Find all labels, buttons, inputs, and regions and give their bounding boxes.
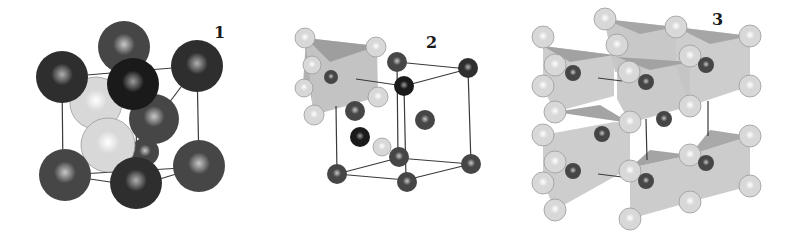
- atom-mid: [345, 101, 365, 121]
- cell-edge: [337, 174, 406, 180]
- atom-mid: [387, 52, 407, 72]
- structure-panel-3: 3: [510, 0, 800, 245]
- atom-light: [532, 124, 554, 146]
- atom-light: [679, 191, 701, 213]
- structure-3-label: 3: [712, 10, 723, 29]
- atom-light: [739, 175, 761, 197]
- atom-light: [679, 45, 701, 67]
- atom-mid: [594, 126, 610, 142]
- cell-edge: [404, 86, 406, 180]
- atom-light: [544, 199, 566, 221]
- atom-light: [594, 8, 616, 30]
- atom-mid: [656, 111, 672, 127]
- atom-mid: [324, 70, 338, 84]
- atom-light: [619, 208, 641, 230]
- atom-light: [739, 125, 761, 147]
- structure-1-drawing: [0, 0, 270, 245]
- structure-1-label: 1: [214, 23, 225, 42]
- structure-2-drawing: [270, 0, 520, 245]
- atom-mid: [389, 147, 409, 167]
- atom-light: [532, 172, 554, 194]
- atom-light: [532, 26, 554, 48]
- atom-mid: [638, 74, 654, 90]
- atom-mid: [638, 173, 654, 189]
- cell-edge: [398, 158, 471, 164]
- atom-light: [665, 16, 687, 38]
- atom-mid: [565, 163, 581, 179]
- atom-mid: [397, 172, 417, 192]
- atom-mid: [173, 140, 225, 192]
- atom-light: [368, 87, 388, 107]
- atom-mid: [39, 149, 91, 201]
- structure-panel-2: 2: [270, 0, 520, 245]
- atom-dark: [36, 51, 88, 103]
- atom-dark: [110, 157, 162, 209]
- atom-darkest: [350, 127, 370, 147]
- atom-light: [679, 144, 701, 166]
- atom-light: [366, 37, 386, 57]
- atom-light: [304, 105, 324, 125]
- atom-dark: [171, 40, 223, 92]
- atom-light: [544, 151, 566, 173]
- atom-light: [373, 138, 391, 156]
- atom-mid: [327, 164, 347, 184]
- structure-panel-1: 1: [0, 0, 270, 245]
- structure-3-drawing: [510, 0, 800, 245]
- cell-edge: [468, 69, 471, 164]
- atom-light: [303, 56, 321, 74]
- atom-light: [295, 28, 315, 48]
- atom-mid: [415, 110, 435, 130]
- atom-mid: [698, 57, 714, 73]
- atom-light: [619, 160, 641, 182]
- cell-edge: [397, 62, 468, 69]
- atom-mid: [565, 65, 581, 81]
- atom-dark: [458, 58, 478, 78]
- atom-light: [739, 75, 761, 97]
- atom-mid: [698, 155, 714, 171]
- atom-light: [679, 95, 701, 117]
- atom-light: [739, 25, 761, 47]
- atom-light: [606, 34, 628, 56]
- atom-light: [295, 79, 313, 97]
- cell-edge: [397, 62, 398, 158]
- cell-edge: [336, 106, 337, 174]
- atom-light: [618, 61, 640, 83]
- atom-darkest: [394, 76, 414, 96]
- atom-light: [619, 111, 641, 133]
- structure-2-label: 2: [426, 33, 437, 52]
- atom-light: [532, 75, 554, 97]
- atom-mid: [461, 154, 481, 174]
- atom-light: [544, 101, 566, 123]
- atom-darkest: [107, 58, 159, 110]
- atom-light: [544, 54, 566, 76]
